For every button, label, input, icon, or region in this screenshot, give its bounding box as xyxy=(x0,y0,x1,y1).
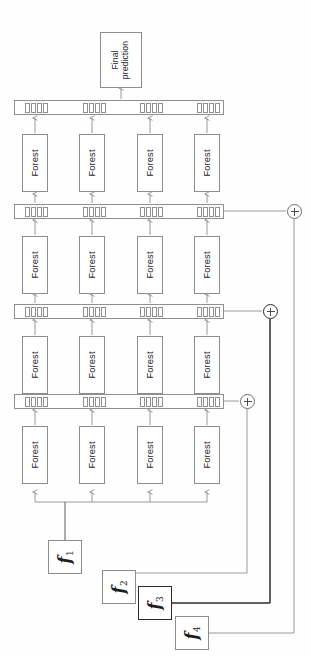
cell xyxy=(43,103,48,113)
adder-icon-1[interactable] xyxy=(240,394,255,409)
cell xyxy=(83,103,88,113)
cell xyxy=(83,207,88,217)
cell xyxy=(101,207,106,217)
forest-label: Forest xyxy=(202,441,213,468)
cell xyxy=(37,397,42,407)
cell xyxy=(158,397,163,407)
cell xyxy=(83,307,88,317)
cell xyxy=(25,397,30,407)
cell xyxy=(197,207,202,217)
cell xyxy=(197,103,202,113)
forest-box-2-4[interactable]: Forest xyxy=(194,336,220,394)
cell xyxy=(215,307,220,317)
forest-label: Forest xyxy=(145,251,156,278)
cell xyxy=(209,207,214,217)
forest-box-1-4[interactable]: Forest xyxy=(194,426,220,484)
forest-box-2-1[interactable]: Forest xyxy=(22,336,48,394)
cell xyxy=(89,207,94,217)
cell xyxy=(197,397,202,407)
cell-group xyxy=(83,207,106,217)
representation-bar-2[interactable] xyxy=(14,304,224,319)
forest-label: Forest xyxy=(87,351,98,378)
feature-box-f1[interactable]: f1 xyxy=(48,540,82,574)
forest-label: Forest xyxy=(145,441,156,468)
cell xyxy=(209,307,214,317)
forest-label: Forest xyxy=(30,351,41,378)
forest-box-2-3[interactable]: Forest xyxy=(137,336,163,394)
forest-label: Forest xyxy=(87,149,98,176)
cell xyxy=(25,103,30,113)
feature-label-f4: f4 xyxy=(183,627,201,640)
cell xyxy=(101,397,106,407)
cell xyxy=(37,307,42,317)
cell-group xyxy=(140,397,163,407)
cell xyxy=(31,207,36,217)
forest-box-4-1[interactable]: Forest xyxy=(22,134,48,192)
cell-group xyxy=(197,307,220,317)
forest-box-3-3[interactable]: Forest xyxy=(137,236,163,294)
cell xyxy=(146,207,151,217)
cell xyxy=(95,103,100,113)
cell xyxy=(101,307,106,317)
cell xyxy=(215,397,220,407)
forest-label: Forest xyxy=(30,441,41,468)
forest-box-4-2[interactable]: Forest xyxy=(79,134,105,192)
cell-group xyxy=(25,207,48,217)
cell-group xyxy=(25,103,48,113)
representation-bar-3[interactable] xyxy=(14,204,224,219)
forest-box-3-2[interactable]: Forest xyxy=(79,236,105,294)
cell-group xyxy=(197,397,220,407)
representation-bar-4[interactable] xyxy=(14,100,224,115)
cell xyxy=(31,103,36,113)
cell xyxy=(215,207,220,217)
cell xyxy=(203,207,208,217)
cell xyxy=(89,103,94,113)
cell xyxy=(146,307,151,317)
cell xyxy=(158,103,163,113)
cell-group xyxy=(83,397,106,407)
forest-box-2-2[interactable]: Forest xyxy=(79,336,105,394)
cell xyxy=(209,103,214,113)
cell xyxy=(140,307,145,317)
cell xyxy=(158,207,163,217)
forest-label: Forest xyxy=(145,351,156,378)
forest-label: Forest xyxy=(87,251,98,278)
feature-label-f1: f1 xyxy=(56,551,74,564)
adder-icon-2[interactable] xyxy=(263,304,278,319)
forest-box-1-1[interactable]: Forest xyxy=(22,426,48,484)
final-prediction-box[interactable]: Final prediction xyxy=(100,32,142,88)
forest-box-3-1[interactable]: Forest xyxy=(22,236,48,294)
cell xyxy=(209,397,214,407)
forest-box-4-3[interactable]: Forest xyxy=(137,134,163,192)
cell xyxy=(203,397,208,407)
cell xyxy=(83,397,88,407)
cell xyxy=(95,307,100,317)
cell-group xyxy=(25,397,48,407)
cell xyxy=(89,397,94,407)
representation-bar-1[interactable] xyxy=(14,394,224,409)
forest-box-4-4[interactable]: Forest xyxy=(194,134,220,192)
final-prediction-label: Final prediction xyxy=(111,41,130,79)
feature-box-f2[interactable]: f2 xyxy=(102,570,136,604)
forest-label: Forest xyxy=(30,251,41,278)
forest-box-1-3[interactable]: Forest xyxy=(137,426,163,484)
cell xyxy=(152,103,157,113)
feature-box-f3[interactable]: f3 xyxy=(138,586,172,620)
cell xyxy=(31,397,36,407)
cell xyxy=(146,103,151,113)
cell xyxy=(140,397,145,407)
cell xyxy=(43,307,48,317)
feature-box-f4[interactable]: f4 xyxy=(175,616,209,650)
forest-box-1-2[interactable]: Forest xyxy=(79,426,105,484)
cell-group xyxy=(83,307,106,317)
cell xyxy=(158,307,163,317)
adder-icon-3[interactable] xyxy=(287,204,302,219)
cell xyxy=(152,207,157,217)
cell xyxy=(140,207,145,217)
cell xyxy=(197,307,202,317)
cell-group xyxy=(83,103,106,113)
forest-label: Forest xyxy=(202,251,213,278)
forest-box-3-4[interactable]: Forest xyxy=(194,236,220,294)
cell-group xyxy=(25,307,48,317)
connector-layer xyxy=(0,0,311,657)
